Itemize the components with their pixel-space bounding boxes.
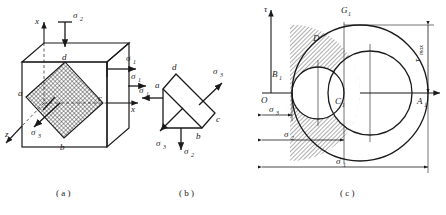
point-B1-label: B	[272, 69, 278, 79]
cube-vertex-a: a	[18, 88, 23, 98]
point-C1-label-sub: 1	[342, 102, 345, 108]
point-A1-label-sub: 1	[424, 102, 427, 108]
caption-a: ( a )	[56, 188, 71, 198]
sigma1-wedge-label: σ	[139, 85, 144, 95]
sigma1-face-label: σ	[126, 53, 131, 63]
tau-max-label-sub: max	[418, 45, 424, 55]
cube-top-face	[22, 43, 129, 62]
point-B1-label-sub: 1	[279, 75, 282, 81]
sigma2-wedge-label: σ	[184, 146, 189, 156]
wedge-vertex-c: c	[216, 114, 220, 124]
sigma3-dimension-label: σ	[269, 104, 274, 114]
caption-c: ( c )	[340, 188, 355, 198]
panel-a-cube: x x z σ 2 σ 1 σ 1 σ 3 a b c d ( a )	[4, 10, 146, 198]
origin-label: O	[261, 95, 268, 105]
figure-svg: x x z σ 2 σ 1 σ 1 σ 3 a b c d ( a )	[0, 0, 446, 215]
sigma2-dimension-label-sub: 2	[291, 135, 294, 141]
caption-b: ( b )	[179, 188, 194, 198]
panel-c-mohr: τ O B 1 A 1 C 1 G 1 D τ ma	[261, 4, 440, 198]
wedge-vertex-d: d	[172, 62, 177, 72]
sigma1-face-label-sub: 1	[133, 59, 136, 65]
wedge-vertex-b: b	[196, 131, 201, 141]
cube-vertex-c: c	[98, 93, 102, 103]
sigma1-dimension-label: σ	[336, 156, 341, 166]
sigma1-axis-label: σ	[131, 71, 136, 81]
tau-max-label: τ	[412, 58, 422, 62]
sigma3-wedge-lower-label: σ	[156, 138, 161, 148]
point-C1-label: C	[335, 96, 342, 106]
sigma3-wedge-upper-label: σ	[213, 66, 218, 76]
cube-vertex-b: b	[60, 142, 65, 152]
cube-inclined-plane	[26, 62, 103, 138]
panel-b-wedge: a b c d σ 1 σ 2 σ 3 σ 3 ( b )	[139, 62, 223, 198]
sigma1-wedge-label-sub: 1	[146, 91, 149, 97]
axis-x-vertical-label: x	[34, 16, 39, 26]
sigma3-wedge-lower-label-sub: 3	[162, 144, 166, 150]
cube-vertex-d: d	[62, 52, 67, 62]
mohr-shaded-region	[290, 20, 435, 170]
sigma3-label: σ	[31, 127, 36, 137]
sigma3-wedge-upper-label-sub: 3	[219, 72, 223, 78]
sigma1-dimension-label-sub: 1	[343, 162, 346, 168]
axis-x-horizontal-label: x	[130, 104, 135, 114]
sigma2-top-label: σ	[73, 10, 78, 20]
region-D-label: D	[312, 33, 320, 43]
point-G1-label-sub: 1	[348, 11, 351, 17]
sigma2-wedge-label-sub: 2	[191, 152, 194, 158]
point-A1-label: A	[416, 96, 423, 106]
sigma3-arrow-wedge-upper	[199, 83, 222, 105]
axis-z-label: z	[4, 129, 9, 139]
axis-tau-label: τ	[264, 4, 268, 14]
sigma2-dimension-label: σ	[284, 129, 289, 139]
wedge-vertex-a: a	[155, 80, 160, 90]
sigma1-axis-label-sub: 1	[138, 77, 141, 83]
sigma3-dimension-label-sub: 3	[275, 110, 279, 116]
sigma3-label-sub: 3	[37, 133, 41, 139]
point-G1-label: G	[341, 5, 348, 15]
sigma2-top-label-sub: 2	[80, 16, 83, 22]
figure-root: x x z σ 2 σ 1 σ 1 σ 3 a b c d ( a )	[0, 0, 446, 215]
